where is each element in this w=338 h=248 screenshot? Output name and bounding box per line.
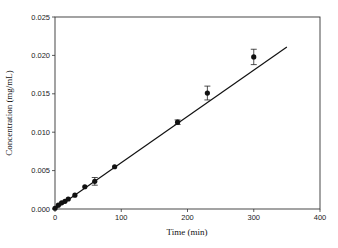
x-tick-label: 200 xyxy=(181,213,194,222)
y-axis-ticks: 0.0000.0050.0100.0150.0200.025 xyxy=(31,13,55,214)
data-point xyxy=(205,90,210,95)
x-axis-title: Time (min) xyxy=(167,227,208,237)
data-point xyxy=(175,120,180,125)
y-tick-label: 0.015 xyxy=(31,89,50,98)
data-point xyxy=(66,196,71,201)
x-tick-label: 0 xyxy=(53,213,57,222)
x-axis-ticks: 0100200300400 xyxy=(53,209,326,222)
y-tick-label: 0.020 xyxy=(31,51,50,60)
x-tick-label: 100 xyxy=(115,213,128,222)
regression-line xyxy=(55,47,287,209)
y-tick-label: 0.010 xyxy=(31,128,50,137)
y-tick-label: 0.005 xyxy=(31,166,50,175)
y-tick-label: 0.000 xyxy=(31,205,50,214)
x-tick-label: 400 xyxy=(314,213,327,222)
data-point xyxy=(72,193,77,198)
y-tick-label: 0.025 xyxy=(31,13,50,22)
chart: 0.0000.0050.0100.0150.0200.025 010020030… xyxy=(0,0,338,248)
data-points xyxy=(52,49,256,211)
data-point xyxy=(251,54,256,59)
data-point xyxy=(82,184,87,189)
data-point xyxy=(112,164,117,169)
y-axis-title: Concentration (mg/mL) xyxy=(4,70,14,156)
data-point xyxy=(92,179,97,184)
x-tick-label: 300 xyxy=(247,213,260,222)
